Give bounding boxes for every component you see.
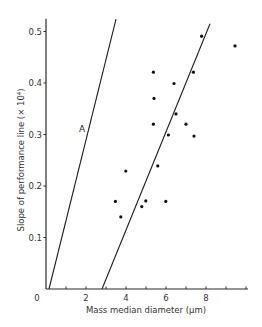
data-point [164, 200, 167, 203]
line-a [49, 19, 116, 289]
data-point [233, 44, 236, 47]
y-tick-label: 0.1 [28, 233, 42, 243]
data-point [172, 82, 175, 85]
line-a-label: A [79, 124, 86, 134]
data-point [184, 123, 187, 126]
x-tick-label: 0 [34, 293, 39, 303]
y-tick-label: 0.3 [28, 130, 42, 140]
data-point [152, 71, 155, 74]
data-point [156, 164, 159, 167]
y-axis-label: Slope of performance line (× 10⁴) [16, 88, 26, 231]
data-point [174, 112, 177, 115]
data-point [152, 97, 155, 100]
data-point [152, 123, 155, 126]
x-tick-label: 4 [123, 293, 128, 303]
regression-line [102, 24, 210, 289]
x-tick-label: 6 [163, 293, 168, 303]
y-tick-label: 0.2 [28, 181, 42, 191]
y-tick-label: 0.4 [28, 78, 42, 88]
data-point [119, 215, 122, 218]
data-point [192, 134, 195, 137]
x-axis: 02468 [34, 287, 248, 304]
data-point [167, 133, 170, 136]
data-point [114, 200, 117, 203]
y-axis: 0.10.20.30.40.5 [28, 19, 46, 289]
data-point [200, 35, 203, 38]
scatter-chart: A 02468 0.10.20.30.40.5 Mass median diam… [0, 0, 262, 327]
x-tick-label: 8 [203, 293, 208, 303]
data-point [144, 199, 147, 202]
data-point [192, 71, 195, 74]
x-tick-label: 2 [83, 293, 88, 303]
plot-area: A [49, 19, 237, 289]
x-axis-label: Mass median diameter (µm) [86, 305, 206, 315]
data-point [124, 169, 127, 172]
y-tick-label: 0.5 [28, 27, 42, 37]
data-point [140, 205, 143, 208]
